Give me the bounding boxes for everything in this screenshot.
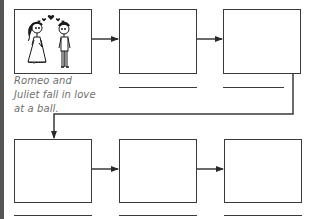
arrow-3-to-4-icon (54, 74, 293, 138)
flow-connectors (0, 0, 309, 219)
